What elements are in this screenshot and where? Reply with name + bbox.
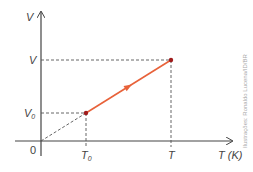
t-final-label: T (168, 149, 176, 161)
v-final-label: V (29, 54, 38, 66)
credit-text: Ilustrações: Ronaldo Lucena/ID/BR (242, 54, 248, 148)
point-initial (84, 111, 88, 115)
point-final (169, 58, 173, 62)
vt-diagram: V V V0 0 T0 T T (K) Ilustrações: Ronaldo… (0, 0, 253, 172)
direction-arrow-icon (124, 82, 134, 91)
origin-label: 0 (30, 144, 36, 156)
x-axis-label: T (K) (218, 149, 243, 161)
extrapolation-line (41, 113, 86, 141)
t0-label: T0 (81, 149, 92, 162)
v0-sub: 0 (31, 113, 35, 120)
y-axis-label: V (26, 11, 35, 23)
t0-sub: 0 (88, 155, 92, 162)
v0-label: V0 (24, 107, 35, 120)
